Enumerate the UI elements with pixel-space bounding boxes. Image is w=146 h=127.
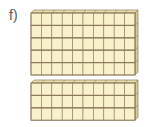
unit-cube (73, 95, 83, 107)
ten-rod (31, 50, 135, 62)
unit-cube (31, 25, 41, 37)
unit-cube (41, 83, 51, 95)
unit-cube (52, 38, 62, 50)
ten-rod (31, 13, 135, 25)
unit-cube (93, 50, 103, 62)
unit-cube (114, 63, 124, 75)
unit-cube (52, 25, 62, 37)
unit-cube (31, 108, 41, 120)
unit-cube (41, 38, 51, 50)
unit-cube (125, 38, 135, 50)
unit-cube (52, 50, 62, 62)
unit-cube (52, 13, 62, 25)
ten-rod (31, 95, 135, 107)
top-group (31, 10, 138, 75)
unit-cube (104, 63, 114, 75)
unit-cube (93, 13, 103, 25)
unit-cube (73, 38, 83, 50)
unit-cube (125, 83, 135, 95)
unit-cube (41, 25, 51, 37)
unit-cube (93, 83, 103, 95)
unit-cube (125, 95, 135, 107)
unit-cube (83, 38, 93, 50)
unit-cube (52, 95, 62, 107)
unit-cube (104, 83, 114, 95)
unit-cube (114, 83, 124, 95)
unit-cube (104, 13, 114, 25)
unit-cube (114, 50, 124, 62)
unit-cube (31, 63, 41, 75)
unit-cube (125, 108, 135, 120)
unit-cube (62, 38, 72, 50)
unit-cube (41, 13, 51, 25)
base-ten-blocks-diagram (0, 0, 146, 127)
ten-rod (31, 108, 135, 120)
unit-cube (31, 50, 41, 62)
unit-cube (93, 38, 103, 50)
unit-cube (114, 25, 124, 37)
unit-cube (114, 95, 124, 107)
ten-rod (31, 38, 135, 50)
unit-cube (83, 13, 93, 25)
unit-cube (31, 95, 41, 107)
unit-cube (41, 50, 51, 62)
unit-cube (62, 83, 72, 95)
unit-cube (62, 63, 72, 75)
unit-cube (114, 108, 124, 120)
unit-cube (114, 38, 124, 50)
unit-cube (104, 50, 114, 62)
unit-cube (125, 50, 135, 62)
unit-cube (125, 13, 135, 25)
unit-cube (62, 50, 72, 62)
unit-cube (31, 13, 41, 25)
unit-cube (104, 95, 114, 107)
unit-cube (83, 25, 93, 37)
unit-cube (125, 25, 135, 37)
unit-cube (104, 38, 114, 50)
unit-cube (125, 63, 135, 75)
unit-cube (93, 63, 103, 75)
unit-cube (31, 83, 41, 95)
unit-cube (62, 25, 72, 37)
unit-cube (104, 25, 114, 37)
unit-cube (73, 25, 83, 37)
unit-cube (52, 63, 62, 75)
unit-cube (104, 108, 114, 120)
unit-cube (73, 50, 83, 62)
unit-cube (93, 25, 103, 37)
unit-cube (73, 108, 83, 120)
unit-cube (31, 38, 41, 50)
unit-cube (41, 108, 51, 120)
unit-cube (41, 63, 51, 75)
ten-rod (31, 63, 135, 75)
ten-rod (31, 83, 135, 95)
unit-cube (83, 63, 93, 75)
ten-rod (31, 25, 135, 37)
unit-cube (52, 83, 62, 95)
unit-cube (52, 108, 62, 120)
unit-cube (83, 83, 93, 95)
unit-cube (93, 108, 103, 120)
unit-cube (41, 95, 51, 107)
bottom-group (31, 80, 138, 120)
unit-cube (83, 95, 93, 107)
unit-cube (62, 108, 72, 120)
unit-cube (83, 108, 93, 120)
unit-cube (93, 95, 103, 107)
unit-cube (73, 83, 83, 95)
unit-cube (73, 13, 83, 25)
unit-cube (62, 95, 72, 107)
unit-cube (62, 13, 72, 25)
unit-cube (83, 50, 93, 62)
unit-cube (114, 13, 124, 25)
unit-cube (73, 63, 83, 75)
